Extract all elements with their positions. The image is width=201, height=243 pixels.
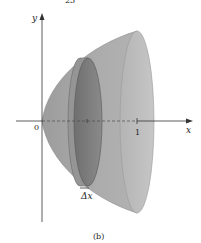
x-axis-arrow-icon: [186, 119, 193, 124]
origin-label: 0: [34, 123, 39, 132]
disk-slice-face: [74, 58, 102, 186]
solid-of-revolution-figure: 23 y x 0 1 Δx (b): [0, 0, 201, 243]
top-text-fragment: 23: [65, 0, 75, 5]
y-axis-label: y: [31, 13, 38, 23]
delta-x-label: Δx: [80, 191, 93, 201]
figure-caption: (b): [93, 232, 104, 241]
x-axis-label: x: [186, 125, 191, 135]
tick-label-1: 1: [135, 128, 140, 137]
y-axis-arrow-icon: [40, 13, 45, 20]
